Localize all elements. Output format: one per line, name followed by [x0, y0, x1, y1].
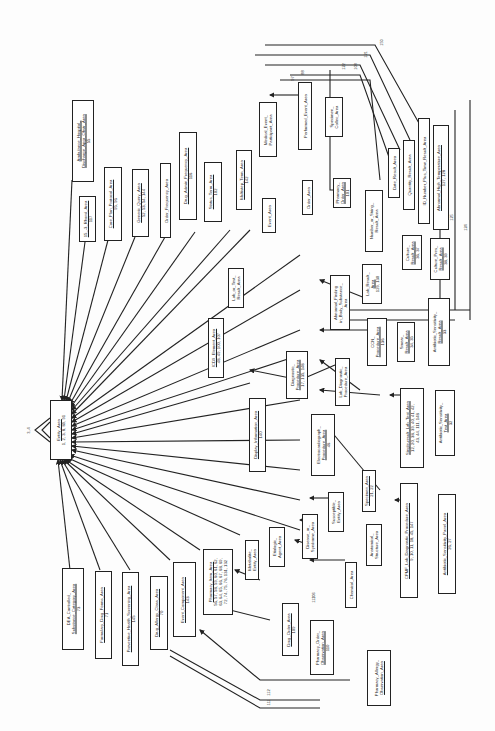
- box-antibiotic-sens-panel: Antibiotic_Sensitivity_Panel_Area26, 27: [438, 494, 456, 594]
- box-medical-event: Medical_Event_Participant_Area: [259, 102, 277, 157]
- box-single-result-lab: Single-result_Lab_Test_Area12, 20, 38, 3…: [400, 388, 424, 468]
- box-dea-controlled: DEA_Controlled_Substance_Category_Area73: [62, 568, 84, 650]
- box-numbers: 129, 130: [375, 272, 380, 296]
- box-title: Formulary_Drug_Forms_Area: [99, 587, 104, 643]
- box-numbers: 70: [159, 589, 164, 637]
- box-formulary-drug: Formulary_Drug_Forms_Area71: [95, 571, 112, 659]
- box-title: Entity_Area: [336, 500, 341, 524]
- box-abnormal-finding: Abnormal_Findingin_Body_Substance_Area: [330, 275, 350, 330]
- diagram-canvas: Entity_Area 1, 2, 3, 8, 89, 91 3, 4 Ambu…: [0, 0, 495, 731]
- box-numbers: 102: [213, 175, 218, 210]
- box-title: Preventive_Health_Screening_Area: [126, 586, 131, 653]
- entity-area-hub: Entity_Area 1, 2, 3, 8, 89, 91: [50, 400, 72, 460]
- box-specimen: Specimen_Area21, 22: [362, 470, 376, 512]
- box-cpmf-lab-diag: CPMF_Lab_Diagnostic_Procedure_Area9, 10,…: [400, 483, 418, 598]
- box-numbers: 95, 96: [113, 180, 118, 229]
- box-numbers: 43, 44, 111, 148: [415, 401, 420, 455]
- edge-label: 124: [463, 224, 468, 231]
- box-title: Performed_Event_Area: [303, 94, 308, 138]
- edge-label: 88: [300, 70, 305, 74]
- box-numbers: 17, 135, 148: [300, 360, 305, 391]
- box-event: Event_Area: [262, 198, 276, 233]
- box-pharmacy-item: Pharmacy_Item_Area56, 57, 58, 59, 60, 61…: [203, 549, 233, 615]
- box-title: Agent_Area: [277, 536, 282, 558]
- box-drug-allergy-class: Drug_Allergy_Class_Area70: [150, 576, 168, 650]
- box-lab-test-result: Lab_or_Test_Result_Area: [228, 268, 244, 308]
- edge-label: 122: [341, 63, 346, 70]
- box-title: Drug_Order_Area: [286, 613, 291, 646]
- box-quantity-result: Quantity_Result_Area: [403, 140, 415, 210]
- box-ekg: 15_-3_Rhond_Area117: [79, 196, 96, 242]
- box-id-number: ID_Number_Plus_Time_Result_Area: [418, 118, 430, 224]
- box-numbers: 117: [88, 201, 93, 238]
- box-numbers: 26, 27: [447, 513, 452, 575]
- box-numbers: 73: [76, 584, 81, 634]
- box-numbers: 136: [380, 327, 385, 358]
- box-disease-syndrome: Disease_or_Syndrome_Area: [302, 514, 318, 559]
- box-metabolite-entity: Metabolite_Entity_Area: [245, 540, 259, 580]
- hub-numbers: 1, 2, 3, 8, 89, 91: [61, 415, 66, 445]
- box-numbers: 127, 128: [441, 145, 446, 211]
- box-chemical: Chemical_Area: [345, 562, 357, 608]
- edge-label: 108: [353, 63, 358, 70]
- box-specimen-collec: Specimen_Collec_Area: [325, 97, 343, 137]
- edge-label: 111: [266, 699, 271, 705]
- box-title: Observation_Area: [379, 660, 384, 696]
- box-numbers: 140: [258, 411, 263, 459]
- box-title: Order_Area: [305, 187, 310, 209]
- edge-label: 97: [290, 76, 295, 80]
- box-numbers: 48, 49, 100, 107: [216, 329, 221, 367]
- box-display-info: Display_Information_Area140: [249, 398, 266, 472]
- box-drug-admin-freq: Drug_Admin_Frequency_Area116: [179, 132, 197, 220]
- box-smear-result: Smear_Result_Area34, 35: [397, 322, 415, 362]
- box-title: Display_Information_Area: [253, 411, 258, 459]
- box-title: Entity_Area: [252, 549, 257, 571]
- box-title: Event_Area: [267, 205, 272, 227]
- box-electrocardiograph: Electrocardiograph_Procedure_Area46: [311, 414, 335, 476]
- box-drug-order: Drug_Order_Area109: [282, 603, 299, 656]
- edge-label: 125: [449, 214, 454, 221]
- box-order-frequency: Order_Frequency_Area: [160, 163, 171, 238]
- box-pharmacy-order-obs: Pharmacy_Order_Observation_Area110: [310, 620, 334, 675]
- box-numbers: 101: [345, 182, 350, 204]
- box-etiologic-agent: Etiologic_Agent_Area: [269, 527, 285, 567]
- box-generic-query: Generic_Query_Area52, 53, 54, 144: [132, 169, 149, 237]
- box-antibiotic-sens-test: Antibiotic_Sensitivity_Test_Area32: [435, 390, 455, 456]
- box-title: Lab_Diagnostic_: [338, 366, 343, 397]
- box-amb-hosp: Ambulance_Hospital_Discharge_Apgr_Obstr_…: [72, 100, 94, 182]
- box-numbers: 38, 39: [443, 246, 448, 273]
- box-status-term: Status_Term_Area102: [204, 162, 222, 222]
- box-title: Participant_Area: [268, 114, 273, 145]
- box-culture-result: Culture_Result_Area36, 37: [402, 235, 422, 270]
- box-culture-pres: Culture_Pres_Result_Area38, 39: [430, 238, 450, 280]
- edge-label: 106: [311, 592, 316, 599]
- box-numbers: 9, 10, 11, 18, 45, 147: [409, 503, 414, 579]
- box-title: Area: [343, 283, 348, 323]
- box-title: Syndrome_Area: [310, 521, 315, 551]
- box-numbers: 55: [86, 114, 91, 168]
- box-numbers: 116: [188, 148, 193, 205]
- box-numbers: 52, 53, 54, 144: [141, 183, 146, 223]
- box-title: Chemical_Area: [349, 571, 354, 600]
- box-event-component: Event_Component_Area143: [173, 562, 196, 637]
- box-order: Order_Area: [302, 180, 313, 215]
- box-numbers: 71: [104, 587, 109, 643]
- box-title: Generic_Query_Area: [136, 183, 141, 223]
- box-diagnostic-proc: Diagnostic_Procedure_Area17, 135, 148: [286, 351, 308, 399]
- box-susceptible-entity: Susceptible_Entity_Area: [328, 492, 344, 532]
- box-numbers: 143: [185, 577, 190, 623]
- box-ccn-proc: CCN_Procedure_Area136: [367, 318, 387, 366]
- box-title: Result_Area: [236, 275, 241, 300]
- box-title: Date_Result_Area: [392, 156, 397, 190]
- box-number-string: Number_or_String_Result_Area: [365, 190, 383, 252]
- edge-label: 112: [266, 689, 271, 695]
- box-title: Procedure_Area: [343, 366, 348, 397]
- box-title: Event_Component_Area: [180, 577, 185, 623]
- box-numbers: 33: [442, 312, 447, 353]
- box-numbers: 46: [326, 426, 331, 463]
- box-numbers: 36, 37: [415, 241, 420, 264]
- box-numbers: 34, 35: [409, 330, 414, 353]
- box-title: Result_Area: [374, 203, 379, 240]
- box-numbers: 145: [131, 586, 136, 653]
- box-performed-event: Performed_Event_Area: [298, 82, 312, 150]
